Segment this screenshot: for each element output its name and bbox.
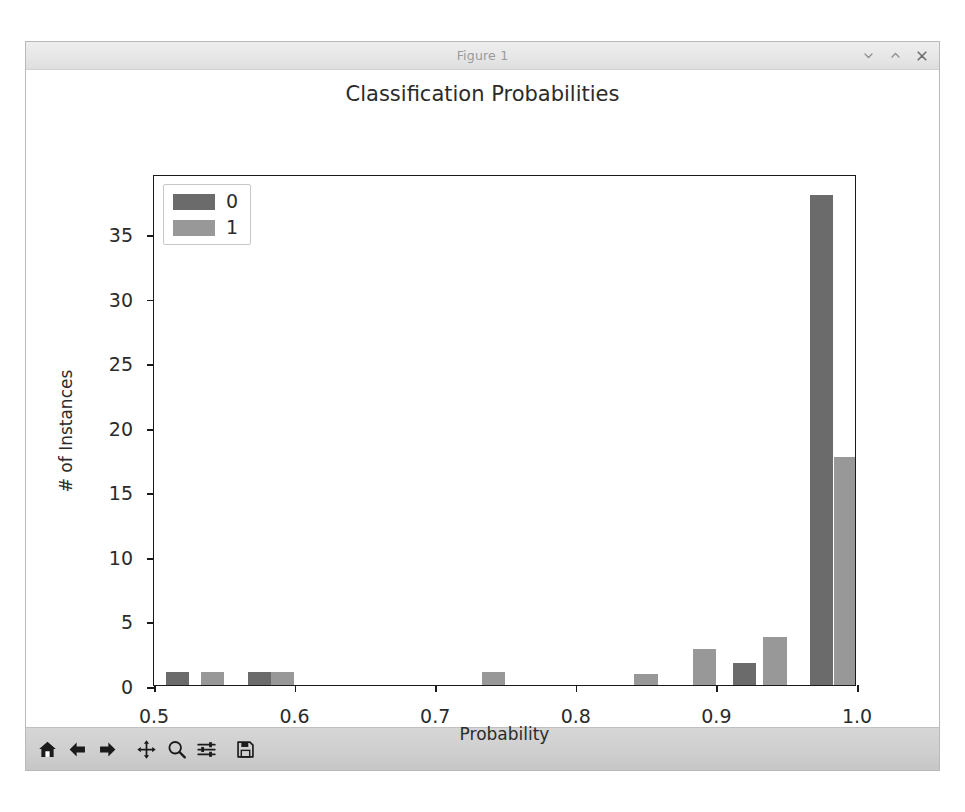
bar-series-1 [634,674,657,685]
chart-legend: 0 1 [163,184,251,245]
y-tick-label: 5 [121,611,133,633]
figure-window: Figure 1 Classification Probabilities [25,41,940,771]
legend-swatch-series-0 [173,194,215,210]
window-titlebar[interactable]: Figure 1 [26,42,939,70]
y-tick-label: 35 [109,224,133,246]
y-tick-mark [147,429,154,431]
y-tick-label: 20 [109,418,133,440]
minimize-button[interactable] [861,49,875,63]
bars-container [154,176,855,685]
legend-label-series-0: 0 [226,192,238,211]
bar-series-0 [248,672,271,685]
y-tick-label: 10 [109,547,133,569]
bar-series-1 [693,649,716,685]
x-tick-mark [857,685,859,692]
plot-axes: 051015202530350.50.60.70.80.91.0 0 1 [153,175,856,686]
x-tick-mark [576,685,578,692]
legend-item: 1 [173,218,238,237]
bar-series-1 [763,637,786,685]
bar-series-0 [166,672,189,685]
y-tick-mark [147,687,154,689]
forward-button[interactable] [92,734,122,764]
y-tick-mark [147,558,154,560]
y-tick-mark [147,300,154,302]
close-button[interactable] [915,49,929,63]
x-tick-label: 0.8 [561,705,591,727]
home-button[interactable] [32,734,62,764]
x-tick-label: 1.0 [842,705,872,727]
window-controls [861,49,929,63]
back-button[interactable] [62,734,92,764]
y-axis-label: # of Instances [54,175,78,686]
y-tick-mark [147,622,154,624]
bar-series-1 [201,672,224,685]
chart-title: Classification Probabilities [26,82,939,106]
x-tick-mark [435,685,437,692]
bar-series-1 [482,672,505,685]
bar-series-1 [834,457,855,685]
y-tick-mark [147,235,154,237]
x-tick-mark [154,685,156,692]
maximize-button[interactable] [888,49,902,63]
y-axis-label-text: # of Instances [56,369,76,492]
legend-item: 0 [173,192,238,211]
x-tick-mark [716,685,718,692]
y-tick-mark [147,364,154,366]
x-tick-label: 0.5 [139,705,169,727]
figure-canvas[interactable]: Classification Probabilities # of Instan… [26,70,939,727]
legend-label-series-1: 1 [226,218,238,237]
y-tick-label: 25 [109,353,133,375]
x-tick-label: 0.7 [420,705,450,727]
x-tick-label: 0.6 [279,705,309,727]
y-tick-mark [147,493,154,495]
legend-swatch-series-1 [173,220,215,236]
y-tick-label: 0 [121,676,133,698]
bar-series-0 [733,663,756,685]
y-tick-label: 30 [109,289,133,311]
x-tick-label: 0.9 [701,705,731,727]
window-title: Figure 1 [26,48,939,63]
x-axis-label: Probability [153,724,856,744]
y-tick-label: 15 [109,482,133,504]
x-tick-mark [295,685,297,692]
bar-series-0 [810,195,833,685]
bar-series-1 [271,672,294,685]
toolbar-separator [122,734,131,764]
